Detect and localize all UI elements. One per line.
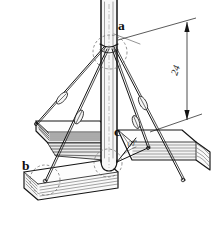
technical-drawing-figure: 24 60° a b c bbox=[0, 0, 218, 228]
dim-ext-lower bbox=[150, 114, 202, 132]
dim-arrow-top bbox=[184, 22, 189, 32]
turnbuckle-right-lower bbox=[131, 115, 142, 130]
figure-svg-canvas: 24 60° a b c bbox=[0, 0, 218, 228]
leader-line-a bbox=[114, 34, 140, 44]
label-b: b bbox=[22, 158, 30, 173]
label-c: c bbox=[114, 124, 120, 139]
dim-ext-upper bbox=[118, 18, 196, 40]
timber-sill-right bbox=[118, 130, 210, 170]
vertical-pole bbox=[101, 0, 117, 171]
turnbuckle-left-upper bbox=[54, 90, 69, 106]
turnbuckle-right-upper bbox=[136, 95, 149, 111]
dimension-value-24: 24 bbox=[168, 64, 182, 77]
label-a: a bbox=[118, 18, 125, 33]
guy-wire-left-upper bbox=[34, 47, 106, 126]
